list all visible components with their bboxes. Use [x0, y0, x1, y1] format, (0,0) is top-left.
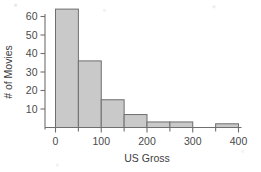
x-axis-tick-label: 300: [184, 135, 202, 147]
y-axis-tick-label: 60: [26, 10, 38, 22]
chart-canvas: 0100200300400102030405060US Gross# of Mo…: [0, 0, 261, 172]
y-ticks-group: 102030405060: [26, 10, 45, 115]
histogram-bar: [78, 61, 101, 128]
histogram-bar: [124, 115, 147, 128]
x-axis-tick-label: 0: [53, 135, 59, 147]
histogram-chart: 0100200300400102030405060US Gross# of Mo…: [0, 0, 261, 172]
y-axis-title: # of Movies: [2, 45, 14, 99]
x-axis-tick-label: 100: [92, 135, 110, 147]
y-axis-tick-label: 10: [26, 103, 38, 115]
y-axis-tick-label: 50: [26, 29, 38, 41]
x-axis-tick-label: 400: [230, 135, 248, 147]
histogram-bar: [216, 124, 239, 128]
y-axis-tick-label: 40: [26, 47, 38, 59]
histogram-bar: [56, 9, 79, 127]
y-axis-tick-label: 20: [26, 84, 38, 96]
x-axis-tick-label: 200: [138, 135, 156, 147]
histogram-bar: [170, 122, 193, 128]
y-axis-tick-label: 30: [26, 66, 38, 78]
x-ticks-group: 0100200300400: [53, 128, 248, 147]
histogram-bar: [147, 122, 170, 128]
histogram-bar: [101, 100, 124, 128]
bars-group: [56, 9, 239, 127]
x-axis-title: US Gross: [124, 152, 170, 164]
